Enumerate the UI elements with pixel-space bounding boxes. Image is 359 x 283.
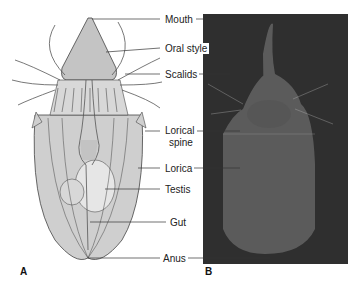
label-mouth: Mouth — [163, 14, 195, 25]
label-testis: Testis — [163, 184, 193, 195]
label-lorical: Lorical — [163, 125, 196, 136]
label-oral-style: Oral style — [163, 43, 209, 54]
label-lorica: Lorica — [163, 163, 194, 174]
label-gut: Gut — [168, 217, 188, 228]
label-anus: Anus — [161, 253, 188, 264]
label-spine: spine — [167, 137, 195, 148]
panel-label-a: A — [20, 266, 27, 277]
label-scalids: Scalids — [163, 69, 199, 80]
panel-label-b: B — [205, 266, 212, 277]
figure: Mouth Oral style Scalids Lorical spine L… — [0, 0, 359, 283]
